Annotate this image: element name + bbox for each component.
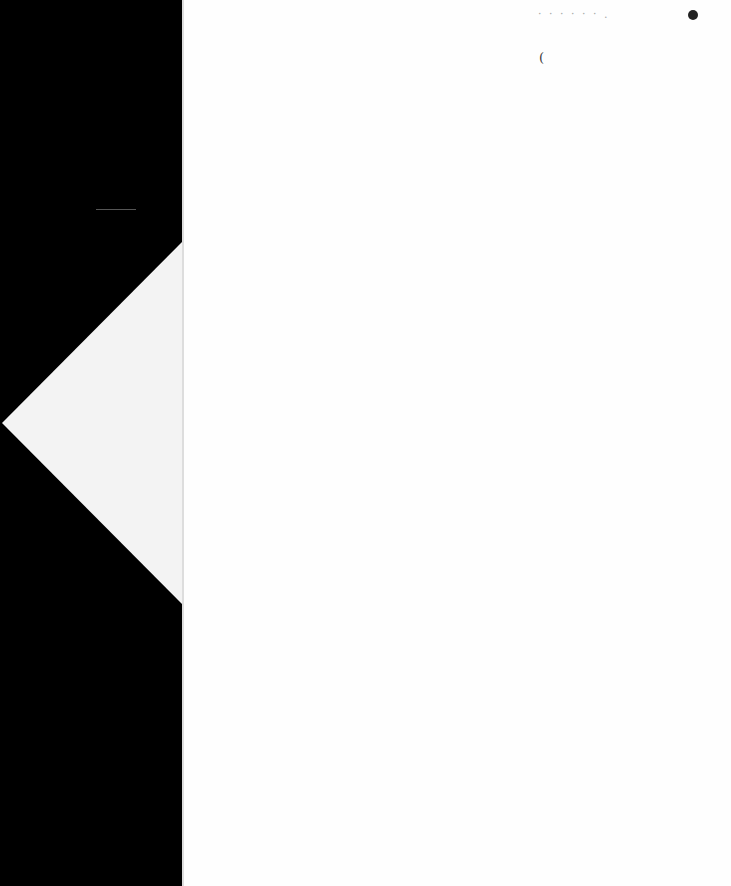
margin-mark: ( (539, 50, 546, 65)
folded-corner (2, 240, 184, 606)
document-page (182, 0, 731, 886)
ink-blot (688, 10, 698, 20)
scan-line-artifact (96, 209, 136, 210)
header-scan-marks: · · · · · · . (538, 8, 609, 21)
